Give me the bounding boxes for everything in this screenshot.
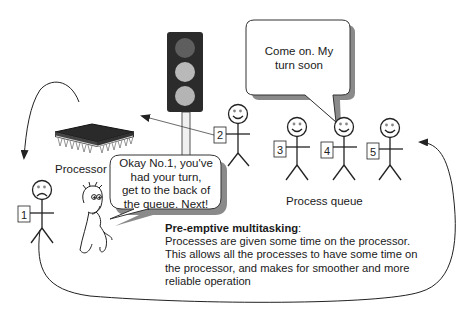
processor-label: Processor [55, 163, 107, 176]
waiting-bubble-line-1: Come on. My [250, 45, 348, 59]
caption-line-3: the processor, and makes for smoother an… [165, 262, 465, 275]
eject-arrow [24, 82, 79, 158]
processor-chip-icon [55, 124, 134, 153]
scheduler-bubble-line-2: had your turn, [111, 171, 221, 185]
caption-heading-row: Pre-emptive multitasking: [165, 222, 465, 235]
caption-heading-suffix: : [298, 222, 301, 234]
scheduler-bubble-line-1: Okay No.1, you've [111, 157, 221, 171]
waiting-bubble-text: Come on. My turn soon [250, 45, 348, 72]
scheduler-bubble-line-3: get to the back of [111, 184, 221, 198]
process-queue-label: Process queue [286, 195, 363, 208]
process-3-label: 3 [277, 144, 283, 156]
caption: Pre-emptive multitasking: Processes are … [165, 222, 465, 288]
caption-line-1: Processes are given some time on the pro… [165, 235, 465, 248]
process-2-label: 2 [217, 129, 223, 141]
waiting-bubble-line-2: turn soon [250, 59, 348, 73]
scheduler-bubble-line-4: the queue. Next! [111, 198, 221, 212]
process-1-label: 1 [21, 209, 27, 221]
process-5-label: 5 [370, 146, 376, 158]
caption-heading: Pre-emptive multitasking [165, 222, 298, 234]
speech-bubble-waiting [246, 20, 355, 127]
worried-scheduler-icon [80, 182, 112, 253]
process-4-label: 4 [324, 145, 330, 157]
caption-line-4: reliable operation [165, 275, 465, 288]
scheduler-bubble-text: Okay No.1, you've had your turn, get to … [111, 157, 221, 211]
dispatch-arrow [142, 116, 214, 135]
caption-line-2: This allows all the processes to have so… [165, 248, 465, 261]
